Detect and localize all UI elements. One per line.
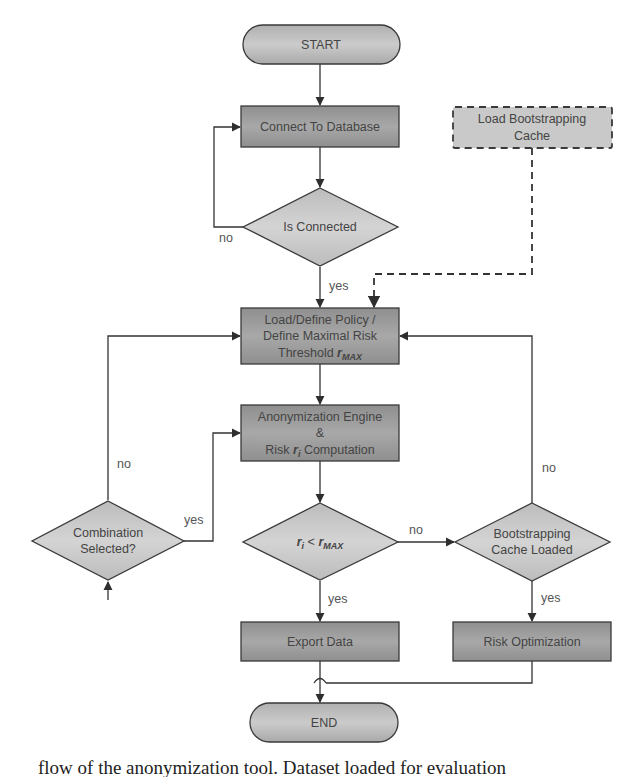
export-label: Export Data	[287, 635, 353, 649]
combination-yes-label: yes	[184, 513, 203, 527]
policy-line2: Define Maximal Risk	[263, 329, 378, 343]
combination-selected-decision: Combination Selected?	[32, 501, 184, 580]
start-terminal: START	[243, 25, 400, 64]
load-cache-line2: Cache	[514, 129, 550, 143]
figure-caption: flow of the anonymization tool. Dataset …	[0, 757, 637, 777]
combination-line2: Selected?	[80, 542, 136, 556]
cache-loaded-line1: Bootstrapping	[493, 527, 570, 541]
risk-check-yes-label: yes	[328, 592, 347, 606]
export-data-process: Export Data	[241, 622, 399, 661]
risk-threshold-decision: ri < rMAX	[243, 503, 398, 580]
edges	[108, 64, 532, 702]
cache-loaded-decision: Bootstrapping Cache Loaded	[455, 503, 610, 581]
edge-combination-no	[108, 336, 240, 500]
risk-opt-label: Risk Optimization	[483, 635, 580, 649]
cache-loaded-no-label: no	[542, 461, 556, 475]
combination-no-label: no	[117, 457, 131, 471]
is-connected-yes-label: yes	[329, 279, 348, 293]
connect-database-process: Connect To Database	[241, 106, 399, 147]
is-connected-no-label: no	[219, 231, 233, 245]
is-connected-label: Is Connected	[283, 220, 357, 234]
anon-line2: &	[316, 426, 325, 440]
edge-isconnected-no	[214, 127, 243, 227]
combination-line1: Combination	[73, 526, 143, 540]
risk-optimization-process: Risk Optimization	[453, 622, 611, 661]
end-terminal: END	[250, 703, 398, 742]
cache-loaded-line2: Cache Loaded	[491, 543, 572, 557]
anon-line3: Risk ri Computation	[265, 443, 375, 459]
load-bootstrapping-cache-process: Load Bootstrapping Cache	[453, 107, 612, 148]
is-connected-decision: Is Connected	[243, 188, 398, 266]
load-cache-line1: Load Bootstrapping	[478, 112, 586, 126]
connect-label: Connect To Database	[260, 120, 380, 134]
cache-loaded-yes-label: yes	[541, 591, 560, 605]
load-define-policy-process: Load/Define Policy / Define Maximal Risk…	[241, 308, 399, 364]
policy-line1: Load/Define Policy /	[264, 313, 376, 327]
edge-cacheloaded-no	[400, 336, 532, 503]
anonymization-engine-process: Anonymization Engine & Risk ri Computati…	[241, 405, 399, 461]
start-label: START	[301, 38, 341, 52]
risk-check-no-label: no	[409, 523, 423, 537]
end-label: END	[311, 716, 337, 730]
edge-riskopt-combination	[326, 661, 532, 683]
anon-line1: Anonymization Engine	[258, 410, 382, 424]
